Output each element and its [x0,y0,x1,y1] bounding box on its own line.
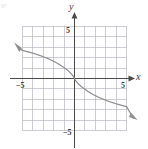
x-axis-tick-label-negative: −5 [16,82,25,90]
y-axis-tick-label-positive: 5 [66,27,70,35]
x-axis-label: x [136,72,140,82]
y-axis-label: y [69,2,73,12]
graph-figure: 5 −5 −5 5 y x [0,0,148,149]
corner-artifact-mark [1,4,7,8]
coordinate-plane-svg [0,0,148,149]
x-axis-tick-label-positive: 5 [121,82,125,90]
y-axis-tick-label-negative: −5 [63,129,72,137]
